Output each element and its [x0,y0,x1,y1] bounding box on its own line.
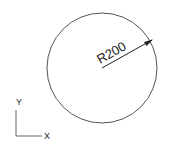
ucs-icon: Y X [16,97,50,141]
ucs-y-label: Y [16,97,22,107]
ucs-x-label: X [44,131,50,141]
drawing-canvas: R200 Y X [0,0,172,152]
radius-dimension[interactable]: R200 [94,38,153,68]
